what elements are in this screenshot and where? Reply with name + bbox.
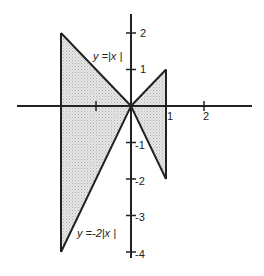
region-diagram: 1 2 2 1 -1 -2 -3 -4 y =|x | y =-2|x |: [0, 0, 264, 276]
y-tick-label-2: 2: [140, 27, 146, 39]
label-y-neg2-abs-x: y =-2|x |: [76, 227, 116, 239]
x-tick-label-2: 2: [203, 110, 209, 122]
y-tick-label-neg1: -1: [135, 139, 145, 151]
y-tick-label-neg2: -2: [135, 175, 145, 187]
y-tick-label-1: 1: [140, 63, 146, 75]
shaded-region-left: [61, 33, 131, 252]
shaded-region-right: [131, 70, 166, 180]
label-y-abs-x: y =|x |: [92, 50, 122, 62]
y-tick-label-neg3: -3: [135, 211, 145, 223]
x-tick-label-1: 1: [167, 110, 173, 122]
y-tick-label-neg4: -4: [135, 248, 145, 260]
